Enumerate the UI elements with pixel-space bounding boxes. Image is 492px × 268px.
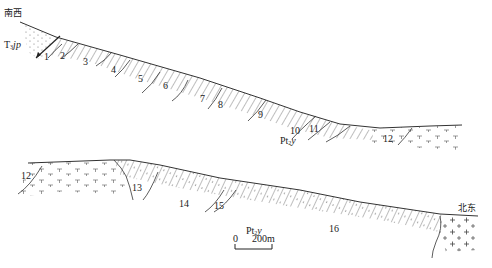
unit-label: 7 [200,94,205,104]
unit-label: 14 [179,199,189,209]
formation-label-upper: Pt2y [280,136,296,146]
unit-label: 6 [163,81,168,91]
formation-suffix: y [291,135,295,146]
scale-bar-line [235,244,272,249]
unit-label: 16 [329,224,339,234]
direction-label-northeast: 北东 [458,204,476,213]
unit-label: 5 [138,74,143,84]
upper-section [20,22,462,150]
intrusive-body-left-fill [18,160,128,197]
unit-label: 3 [83,57,88,67]
scale-bar-end: 200m [252,234,275,244]
unit-label: 1 [44,52,49,62]
unit-label: 9 [258,110,263,120]
formation-suffix: jp [13,39,21,50]
intrusive-body-right-fill [440,216,478,252]
lower-section [18,160,478,258]
hatched-dotted-strata-fill [113,160,446,232]
cross-section-figure: 南西 T3jp 1 2 3 4 5 6 7 8 9 10 11 12 Pt2y … [0,0,492,268]
ground-surface-line [20,22,462,128]
unit-label: 4 [111,65,116,75]
unit-label: 12 [383,134,393,144]
scale-bar-start: 0 [233,234,238,244]
unit-label: 15 [214,201,224,211]
unit-label: 2 [60,51,65,61]
formation-label-triassic: T3jp [4,40,21,50]
unit-label: 8 [218,100,223,110]
unit-label: 13 [132,183,142,193]
direction-label-southwest: 南西 [4,9,22,18]
hatched-strata-fill [50,37,375,140]
unit-label: 12 [21,171,31,181]
intrusive-body-fill [365,125,462,150]
unit-label: 11 [309,124,319,134]
